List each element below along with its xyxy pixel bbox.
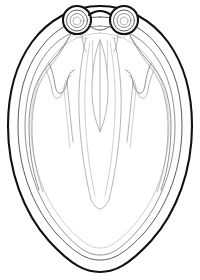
right-eye-ring xyxy=(110,6,138,34)
figure-root xyxy=(0,0,200,280)
anatomical-line-drawing xyxy=(0,0,200,280)
left-eye-ring xyxy=(63,6,91,34)
